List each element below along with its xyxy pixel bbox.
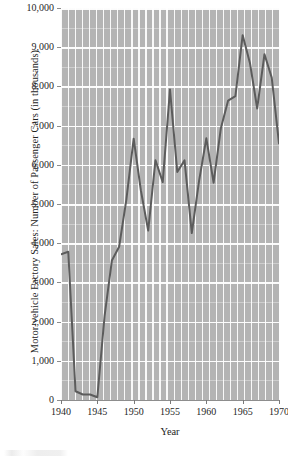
x-axis-tick-label: 1970 — [269, 406, 288, 418]
y-axis-tick-mark — [57, 8, 61, 9]
x-axis-tick-labels: 1940194519501955196019651970 — [0, 406, 288, 422]
x-axis-tick-mark — [61, 400, 62, 404]
y-axis-tick-mark — [57, 47, 61, 48]
y-axis-tick-mark — [57, 400, 61, 401]
x-axis-tick-mark — [134, 400, 135, 404]
x-axis-tick-label: 1950 — [124, 406, 144, 418]
x-axis-tick-mark — [243, 400, 244, 404]
y-axis-tick-mark — [57, 282, 61, 283]
x-axis-tick-marks — [61, 400, 279, 405]
y-axis-tick-label: 2,000 — [32, 317, 55, 327]
x-axis-tick-label: 1960 — [196, 406, 216, 418]
y-axis-tick-label: 5,000 — [32, 199, 55, 209]
y-axis-tick-label: 9,000 — [32, 42, 55, 52]
y-axis-tick-mark — [57, 204, 61, 205]
y-axis-tick-label: 4,000 — [32, 238, 55, 248]
y-axis-tick-label: 1,000 — [32, 356, 55, 366]
y-axis-tick-label: 3,000 — [32, 277, 55, 287]
y-axis-tick-mark — [57, 126, 61, 127]
x-axis-tick-mark — [97, 400, 98, 404]
y-axis-tick-mark — [57, 361, 61, 362]
chart-figure: Motor-vehicle Factory Sales: Number of P… — [0, 0, 288, 460]
y-axis-tick-label: 8,000 — [32, 81, 55, 91]
page-edge-artifact — [4, 450, 68, 456]
y-axis-tick-mark — [57, 322, 61, 323]
y-axis-tick-label: 10,000 — [27, 3, 55, 13]
x-axis-tick-mark — [206, 400, 207, 404]
x-axis-title: Year — [61, 426, 279, 437]
y-axis-tick-mark — [57, 86, 61, 87]
data-series-line — [61, 8, 279, 400]
x-axis-tick-label: 1955 — [160, 406, 180, 418]
x-axis-tick-label: 1940 — [51, 406, 71, 418]
y-axis-tick-mark — [57, 243, 61, 244]
y-axis-tick-label: 0 — [49, 395, 54, 405]
x-axis-tick-mark — [279, 400, 280, 404]
x-axis-tick-label: 1945 — [87, 406, 107, 418]
x-axis-tick-label: 1965 — [233, 406, 253, 418]
y-axis-tick-label: 7,000 — [32, 121, 55, 131]
y-axis-tick-labels: 01,0002,0003,0004,0005,0006,0007,0008,00… — [0, 0, 61, 460]
y-axis-tick-mark — [57, 165, 61, 166]
y-axis-tick-label: 6,000 — [32, 160, 55, 170]
plot-area — [61, 8, 279, 400]
x-axis-tick-mark — [170, 400, 171, 404]
